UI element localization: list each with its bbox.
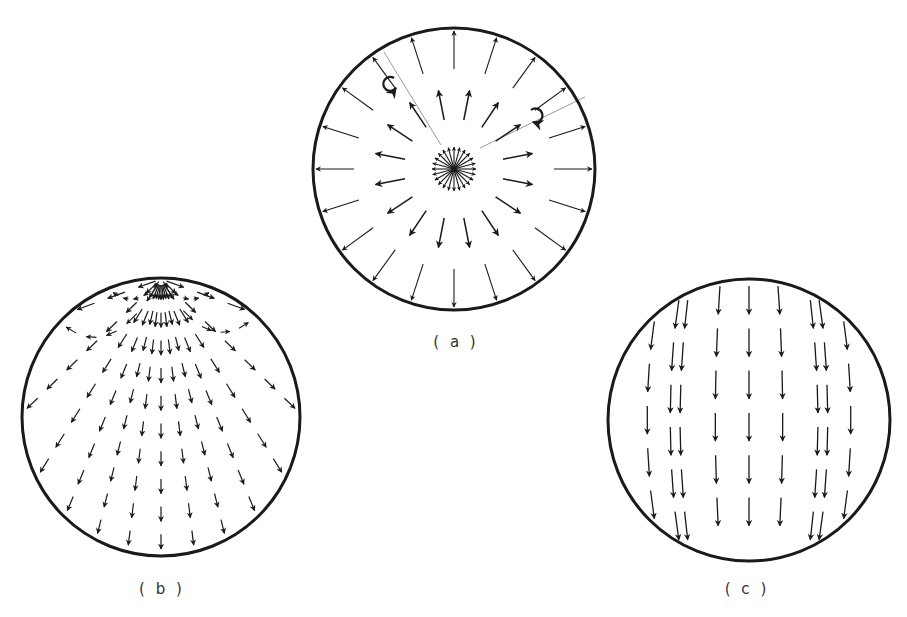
downward-arrow <box>849 364 851 392</box>
field-arrow <box>152 340 154 355</box>
field-arrow <box>142 311 148 325</box>
field-arrow <box>185 476 187 491</box>
downward-arrow <box>819 512 823 540</box>
downward-arrow <box>817 427 818 455</box>
downward-arrow <box>844 491 848 519</box>
radial-arrow <box>388 197 413 214</box>
downward-arrow <box>782 455 783 483</box>
downward-arrow <box>680 385 681 413</box>
downward-arrow <box>670 385 671 413</box>
field-arrow <box>132 338 138 352</box>
radial-arrow <box>535 88 566 110</box>
radial-arrow <box>342 88 373 110</box>
downward-arrow <box>778 286 780 314</box>
panel-label-c: ( c ) <box>725 580 770 598</box>
field-arrow <box>155 312 157 327</box>
downward-arrow <box>810 512 813 540</box>
downward-arrow <box>781 328 782 356</box>
field-arrow <box>217 417 223 431</box>
downward-arrow <box>648 448 650 476</box>
field-arrow <box>192 531 194 546</box>
field-arrow <box>221 520 224 534</box>
curved-field-arrow <box>194 298 199 299</box>
downward-arrow <box>815 469 817 497</box>
radial-arrow <box>482 211 499 236</box>
radial-arrow <box>549 200 585 212</box>
radial-arrow <box>513 57 535 88</box>
downward-arrow <box>670 427 671 455</box>
field-arrow <box>145 394 147 409</box>
field-arrow <box>111 467 114 481</box>
field-arrow <box>126 302 137 312</box>
rotation-marker-icon <box>383 77 396 91</box>
field-arrow <box>185 302 196 312</box>
curved-field-arrow <box>127 314 137 324</box>
curved-field-arrow <box>107 331 117 336</box>
field-arrow <box>189 389 192 403</box>
downward-arrow <box>681 342 683 370</box>
downward-arrow <box>675 512 679 540</box>
radial-arrow <box>535 228 566 250</box>
radial-arrow <box>373 250 395 281</box>
field-arrow <box>202 441 205 455</box>
field-arrow <box>245 360 256 370</box>
field-arrow <box>100 417 106 431</box>
downward-arrow <box>827 385 828 413</box>
downward-arrow <box>817 385 818 413</box>
radial-arrow <box>388 125 413 142</box>
downward-arrow <box>675 300 679 328</box>
field-arrow <box>169 311 172 325</box>
curved-field-arrow <box>134 298 139 299</box>
field-arrow <box>104 494 107 508</box>
field-arrow <box>103 359 112 373</box>
field-arrow <box>142 421 144 436</box>
downward-arrow <box>824 342 826 370</box>
field-arrow <box>168 340 170 355</box>
panel-label-b: ( b ) <box>139 580 185 598</box>
radial-arrow <box>376 153 406 159</box>
field-arrow <box>265 379 276 389</box>
field-arrow <box>189 503 191 518</box>
field-arrow <box>124 415 127 429</box>
field-arrow <box>130 389 133 403</box>
downward-arrow <box>685 512 688 540</box>
downward-arrow <box>717 498 718 526</box>
field-arrow <box>258 434 267 448</box>
downward-arrow <box>716 455 717 483</box>
guide-line <box>384 52 441 145</box>
field-arrow <box>249 496 255 510</box>
field-arrow <box>185 338 191 352</box>
field-arrow <box>172 367 174 382</box>
radial-arrow <box>485 38 497 74</box>
field-arrow <box>56 434 65 448</box>
radial-arrow <box>411 264 423 300</box>
radial-arrow <box>496 125 521 142</box>
downward-arrow <box>648 364 650 392</box>
field-arrow <box>137 363 140 377</box>
field-arrow <box>242 409 251 423</box>
downward-arrow <box>716 328 717 356</box>
radial-arrow <box>410 211 427 236</box>
downward-arrow <box>824 469 826 497</box>
field-arrow <box>174 311 180 325</box>
field-arrow <box>225 341 236 351</box>
downward-arrow <box>718 286 720 314</box>
downward-arrow <box>681 469 683 497</box>
radial-arrow <box>438 218 444 248</box>
field-arrow <box>71 409 80 423</box>
field-arrow <box>87 341 98 351</box>
curved-field-arrow <box>183 311 192 320</box>
field-arrow <box>195 334 204 348</box>
field-arrow <box>132 503 134 518</box>
field-arrow <box>195 415 198 429</box>
downward-arrow <box>810 300 813 328</box>
field-arrow <box>128 531 130 546</box>
radial-arrow <box>410 103 427 128</box>
field-arrow <box>78 470 84 484</box>
field-arrow <box>87 384 96 398</box>
field-arrow <box>110 391 116 405</box>
downward-arrow <box>672 469 674 497</box>
field-arrow <box>67 496 73 510</box>
radial-arrow <box>482 103 499 128</box>
downward-arrow <box>827 427 828 455</box>
